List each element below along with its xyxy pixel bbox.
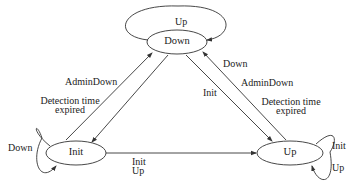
edge-up-self-label-2: Up [332, 163, 344, 173]
edge-down-to-up-label: Init [203, 88, 217, 98]
edge-down-self-label: Up [175, 17, 187, 27]
edge-down-to-init [92, 55, 168, 142]
state-init-label: Init [56, 146, 96, 157]
edge-init-to-down-label-1: AdminDown [65, 77, 117, 87]
state-up-label: Up [270, 146, 310, 157]
edge-up-to-down-label-2: AdminDown [241, 78, 293, 88]
edge-up-self-label-1: Init [332, 141, 346, 151]
edge-init-to-down-label-3: expired [38, 105, 102, 115]
edge-init-to-up-label-2: Up [132, 166, 144, 176]
edge-init-self-label: Down [8, 143, 32, 153]
state-down-label: Down [157, 35, 197, 46]
edge-up-to-down-label-1: Down [223, 59, 247, 69]
bfd-state-diagram: Down Init Up Up Down Init Up AdminDown D… [0, 0, 354, 192]
edge-up-to-down-label-4: expired [259, 106, 323, 116]
